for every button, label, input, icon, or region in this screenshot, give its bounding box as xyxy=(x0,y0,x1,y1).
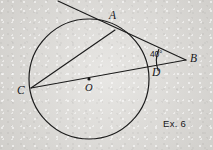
point-label-b: B xyxy=(190,53,197,65)
tangent-line-through-a-to-b xyxy=(58,1,186,60)
point-label-c: C xyxy=(17,85,25,97)
center-point-dot xyxy=(87,77,90,80)
point-label-d: D xyxy=(152,67,160,79)
chord-c-to-a xyxy=(31,30,115,88)
exercise-caption: Ex. 6 xyxy=(163,119,186,129)
angle-measure-label: 40° xyxy=(150,50,162,59)
geometry-figure: A B C D O 40° Ex. 6 xyxy=(0,0,213,150)
center-label-o: O xyxy=(85,83,93,94)
point-label-a: A xyxy=(109,10,116,22)
secant-c-through-o-d-to-b xyxy=(31,60,186,88)
